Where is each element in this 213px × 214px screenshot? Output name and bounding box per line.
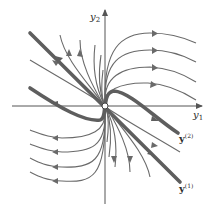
arrow-icon bbox=[152, 30, 158, 37]
trajectory bbox=[30, 112, 105, 138]
origin-marker bbox=[102, 103, 108, 109]
y1-axis-label: y1 bbox=[193, 110, 203, 122]
arrow-icon bbox=[150, 81, 157, 88]
arrow-icon bbox=[127, 156, 133, 163]
trajectory bbox=[30, 60, 103, 104]
phase-portrait bbox=[0, 0, 213, 214]
eigen-label-y1: y(1) bbox=[179, 183, 193, 194]
arrow-icon bbox=[77, 49, 83, 57]
arrow-icon bbox=[52, 178, 58, 184]
y2-axis-label: y2 bbox=[90, 12, 100, 24]
arrow-icon bbox=[52, 135, 58, 141]
arrow-icon bbox=[152, 47, 158, 54]
arrow-icon bbox=[151, 142, 158, 148]
trajectory bbox=[105, 67, 196, 102]
arrow-icon bbox=[52, 164, 58, 170]
arrow-icon bbox=[152, 64, 158, 71]
arrow-icon bbox=[52, 149, 58, 155]
eigen-label-y2: y(2) bbox=[179, 133, 193, 144]
